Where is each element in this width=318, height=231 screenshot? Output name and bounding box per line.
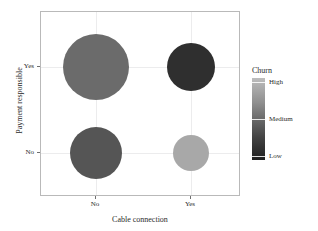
y-axis-title: Payment responsible: [15, 41, 24, 161]
bubble-chart-figure: No Yes Yes No Cable connection Payment r…: [0, 0, 318, 231]
legend-title: Churn: [252, 66, 316, 75]
legend-body: High Medium Low: [252, 78, 316, 160]
y-tick-mark-no: [37, 152, 40, 153]
x-tick-mark-yes: [190, 196, 191, 199]
legend-label-medium: Medium: [269, 115, 293, 123]
bubble-no-yes[interactable]: [63, 34, 129, 100]
x-axis-title: Cable connection: [40, 215, 240, 224]
y-tick-mark-yes: [37, 66, 40, 67]
x-tick-label-yes: Yes: [185, 200, 195, 208]
legend-label-high: High: [269, 78, 283, 86]
plot-panel: [40, 11, 240, 196]
legend-label-low: Low: [269, 152, 282, 160]
legend-tick-low: [252, 156, 265, 157]
x-tick-mark-no: [95, 196, 96, 199]
bubble-yes-no[interactable]: [173, 135, 209, 171]
legend: Churn High Medium Low: [252, 66, 316, 160]
legend-tick-medium: [252, 119, 265, 120]
x-tick-label-no: No: [91, 200, 100, 208]
legend-tick-high: [252, 82, 265, 83]
bubble-yes-yes[interactable]: [167, 43, 215, 91]
bubble-no-no[interactable]: [70, 127, 122, 179]
